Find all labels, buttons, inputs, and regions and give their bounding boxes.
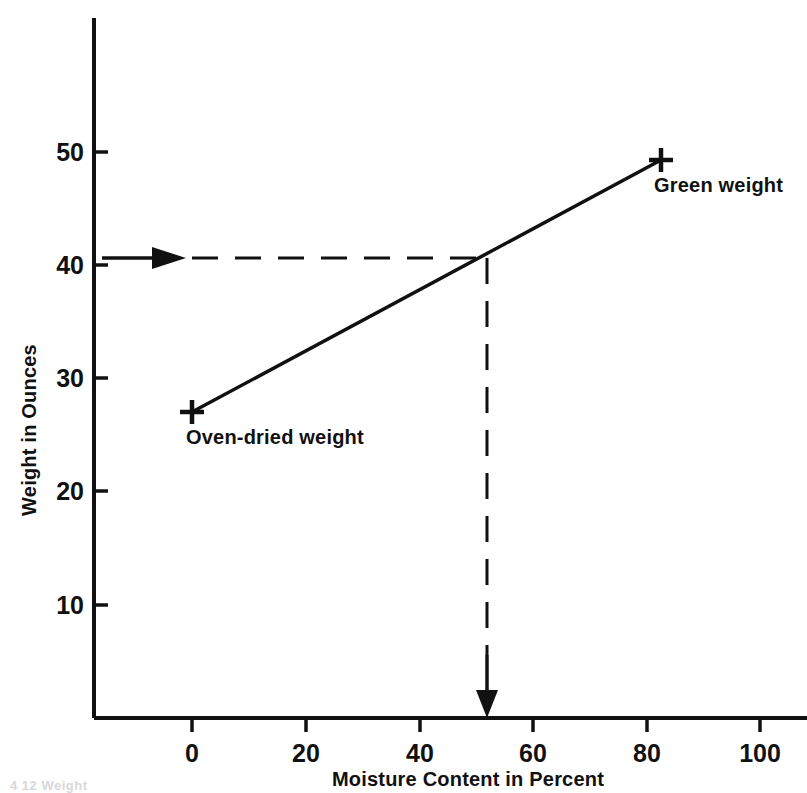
faint-page-caption: 4 12 Weight bbox=[10, 778, 88, 793]
chart-figure: 50 40 30 20 10 0 20 40 60 80 100 Weight … bbox=[0, 0, 807, 793]
y-tick-label-40: 40 bbox=[56, 251, 84, 279]
y-axis-title: Weight in Ounces bbox=[18, 344, 40, 516]
x-tick-label-40: 40 bbox=[406, 739, 434, 767]
point-label-green-weight: Green weight bbox=[654, 174, 783, 196]
x-tick-label-100: 100 bbox=[739, 739, 781, 767]
x-axis-title: Moisture Content in Percent bbox=[332, 768, 604, 790]
y-tick-label-10: 10 bbox=[56, 591, 84, 619]
y-tick-label-30: 30 bbox=[56, 364, 84, 392]
x-tick-label-20: 20 bbox=[292, 739, 320, 767]
y-tick-label-20: 20 bbox=[56, 477, 84, 505]
weight-moisture-line-chart: 50 40 30 20 10 0 20 40 60 80 100 Weight … bbox=[0, 0, 807, 793]
x-tick-label-80: 80 bbox=[633, 739, 661, 767]
x-tick-label-0: 0 bbox=[185, 739, 199, 767]
point-label-oven-dried-weight: Oven-dried weight bbox=[186, 426, 364, 448]
x-tick-label-60: 60 bbox=[519, 739, 547, 767]
y-tick-label-50: 50 bbox=[56, 138, 84, 166]
chart-background bbox=[0, 0, 807, 793]
